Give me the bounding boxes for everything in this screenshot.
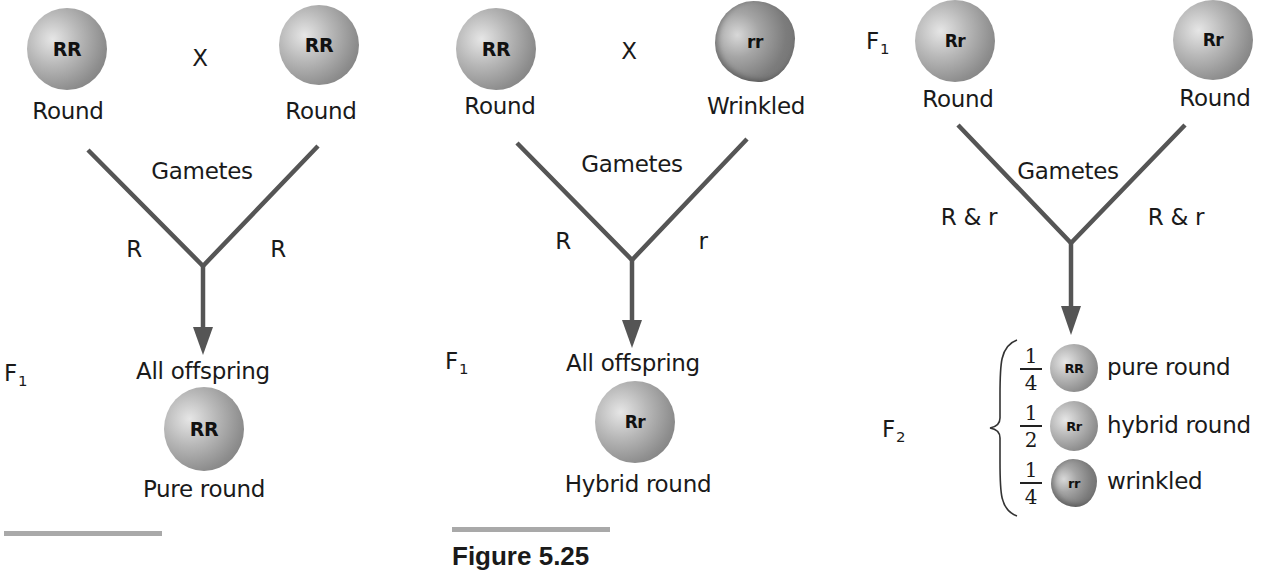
phenotype-label: wrinkled	[1107, 470, 1202, 493]
ratio-fraction: 12	[1019, 403, 1043, 450]
pea-round-parent: RR	[456, 8, 536, 90]
figure-caption: Figure 5.25	[452, 541, 589, 572]
offspring-label: All offspring	[566, 352, 700, 375]
pea-round-parent-2: RR	[279, 5, 359, 85]
offspring-phenotype: Pure round	[143, 478, 265, 501]
genotype-label: RR	[190, 418, 218, 440]
pea-round-parent-2: Rr	[1173, 0, 1253, 80]
caption-rule	[452, 527, 610, 532]
gametes-label: Gametes	[151, 160, 253, 183]
pea-f2-rr-hybrid: Rr	[1050, 401, 1098, 451]
ratio-fraction: 14	[1019, 460, 1043, 507]
caption-rule	[4, 531, 162, 536]
phenotype-label: hybrid round	[1107, 414, 1251, 437]
generation-label-f1: F1	[4, 362, 27, 385]
gamete-allele-right: R & r	[1148, 206, 1205, 229]
offspring-phenotype: Hybrid round	[565, 473, 711, 496]
pea-f2-rr-dominant: RR	[1050, 344, 1098, 392]
genotype-label: Rr	[1066, 419, 1081, 434]
phenotype-label: Round	[32, 100, 103, 123]
ratio-fraction: 14	[1019, 346, 1043, 393]
pea-wrinkled-parent: rr	[715, 1, 795, 82]
genotype-label: rr	[1068, 476, 1080, 491]
phenotype-label: Wrinkled	[707, 95, 805, 118]
f2-brace	[990, 340, 1017, 516]
gamete-allele-left: R	[555, 230, 571, 253]
genotype-label: Rr	[625, 412, 645, 432]
generation-label-f1: F1	[445, 350, 468, 373]
genotype-label: RR	[305, 34, 333, 56]
gametes-label: Gametes	[1017, 160, 1119, 183]
offspring-label: All offspring	[136, 360, 270, 383]
genotype-label: RR	[1064, 361, 1083, 376]
pea-round-parent-1: Rr	[915, 0, 995, 82]
genotype-label: Rr	[1203, 30, 1223, 50]
arrow-down-icon	[622, 320, 642, 348]
phenotype-label: Round	[922, 88, 993, 111]
gamete-allele-right: R	[270, 238, 286, 261]
pea-f2-rr-recessive: rr	[1051, 459, 1097, 507]
genotype-label: rr	[747, 32, 763, 52]
phenotype-label: Round	[1179, 87, 1250, 110]
pea-offspring: Rr	[595, 381, 675, 463]
genotype-label: RR	[482, 38, 510, 60]
pea-offspring: RR	[164, 387, 244, 471]
cross-symbol: X	[192, 47, 207, 70]
gamete-allele-left: R	[126, 238, 142, 261]
pea-round-parent-1: RR	[27, 8, 107, 90]
cross-symbol: X	[621, 40, 636, 63]
arrow-down-icon	[193, 327, 213, 355]
phenotype-label: pure round	[1107, 356, 1230, 379]
genotype-label: Rr	[945, 31, 965, 51]
generation-label-f2: F2	[882, 418, 905, 441]
genotype-label: RR	[53, 38, 81, 60]
gamete-allele-left: R & r	[941, 206, 998, 229]
gametes-label: Gametes	[581, 153, 683, 176]
gamete-allele-right: r	[698, 230, 707, 253]
generation-label-f1: F1	[866, 30, 889, 53]
phenotype-label: Round	[285, 100, 356, 123]
phenotype-label: Round	[464, 95, 535, 118]
arrow-down-icon	[1061, 306, 1081, 335]
